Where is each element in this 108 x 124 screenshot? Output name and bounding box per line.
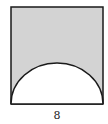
side-length-label: 8 — [54, 109, 61, 122]
geometry-figure: 8 — [0, 0, 108, 124]
